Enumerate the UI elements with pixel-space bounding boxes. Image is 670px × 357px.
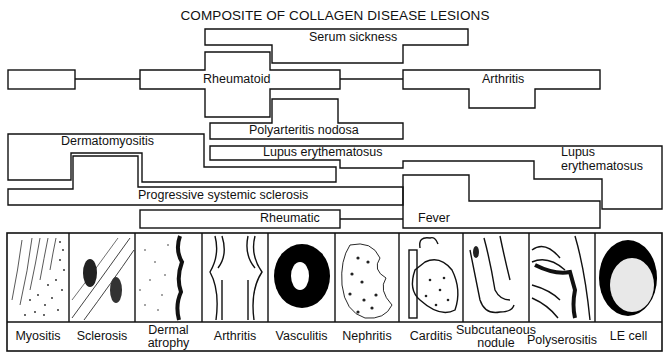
label-dermatomyositis: Dermatomyositis — [61, 135, 154, 148]
label-progressive-systemic-sclerosis: Progressive systemic sclerosis — [138, 189, 308, 202]
label-serum-sickness: Serum sickness — [309, 31, 397, 44]
myositis-illustration — [12, 238, 65, 316]
lesion-label-line: Subcutaneous — [456, 324, 536, 337]
label-lupus-right-line2: erythematosus — [561, 160, 643, 173]
lesion-label-carditis: Carditis — [399, 322, 463, 351]
le-cell-illustration — [599, 240, 657, 316]
lesion-label-polyserositis: Polyserositis — [529, 322, 595, 351]
vasculitis-illustration — [274, 244, 330, 308]
label-rheumatoid: Rheumatoid — [203, 73, 270, 86]
lesion-label-line: Dermal — [148, 324, 188, 337]
subcutaneous-nodule-illustration — [470, 236, 514, 313]
rheumatoid-arthritis-left-box — [8, 70, 75, 89]
polyserositis-illustration — [532, 236, 590, 320]
lesion-label-le-cell: LE cell — [595, 322, 662, 351]
lesion-label-line: atrophy — [148, 337, 190, 350]
label-polyarteritis-nodosa: Polyarteritis nodosa — [249, 124, 359, 137]
lesion-label-myositis: Myositis — [7, 322, 69, 351]
nephritis-kidney-illustration — [342, 244, 392, 318]
dermal-atrophy-illustration — [139, 236, 182, 320]
lesion-label-arthritis: Arthritis — [202, 322, 268, 351]
carditis-heart-illustration — [409, 238, 458, 318]
label-fever: Fever — [418, 212, 450, 225]
lesion-label-sclerosis: Sclerosis — [69, 322, 135, 351]
sclerosis-illustration — [72, 238, 134, 320]
lesion-label-subcutaneous-nodule: Subcutaneous nodule — [456, 322, 536, 351]
label-lupus-erythematosus: Lupus erythematosus — [263, 146, 383, 159]
arthritis-joint-illustration — [210, 236, 262, 320]
diagram-shapes — [0, 0, 670, 357]
label-lupus-right-line1: Lupus — [561, 146, 595, 159]
lesion-label-line: nodule — [477, 337, 515, 350]
lesion-label-dermal-atrophy: Dermal atrophy — [135, 322, 202, 351]
label-arthritis: Arthritis — [482, 73, 524, 86]
lesion-label-nephritis: Nephritis — [335, 322, 399, 351]
lesion-label-vasculitis: Vasculitis — [268, 322, 335, 351]
label-rheumatic: Rheumatic — [260, 212, 320, 225]
